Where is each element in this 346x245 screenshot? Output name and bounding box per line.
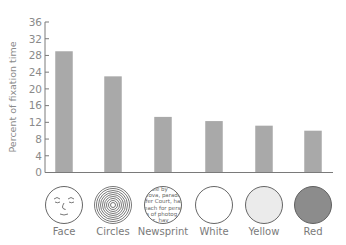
- y-axis-label: Percent of fixation time: [7, 41, 18, 152]
- concentric-circles-icon: [95, 187, 132, 224]
- bar-yellow: [255, 126, 273, 173]
- stimulus-white: [196, 187, 233, 224]
- stimulus-circles: [95, 187, 132, 224]
- y-tick-label: 36: [29, 16, 43, 28]
- category-label: Red: [304, 226, 323, 237]
- stimulus-face: [46, 187, 83, 224]
- svg-text:mer, hav: mer, hav: [144, 217, 169, 223]
- stimulus-yellow: [246, 187, 283, 224]
- stimuli-row: FaceCirclesuable byslova, paradeifer Cou…: [46, 186, 332, 237]
- bar-face: [55, 51, 73, 172]
- disc-icon-white: [196, 187, 233, 224]
- disc-icon-yellow: [246, 187, 283, 224]
- svg-text:ifer Court, has: ifer Court, has: [144, 198, 183, 204]
- y-axis: 04812162024283236: [29, 16, 49, 179]
- bar-red: [304, 131, 322, 173]
- category-label: Newsprint: [138, 226, 189, 237]
- y-tick-label: 0: [35, 166, 42, 178]
- stimulus-red: [295, 187, 332, 224]
- y-tick-label: 28: [29, 49, 42, 61]
- face-icon: [46, 187, 83, 224]
- disc-icon-red: [295, 187, 332, 224]
- y-tick-label: 20: [29, 83, 42, 95]
- y-tick-label: 8: [35, 133, 42, 145]
- y-tick-label: 12: [29, 116, 42, 128]
- y-tick-label: 32: [29, 33, 42, 45]
- y-tick-label: 4: [35, 150, 42, 162]
- fixation-bar-chart: 04812162024283236 Percent of fixation ti…: [0, 0, 346, 245]
- category-label: White: [199, 226, 228, 237]
- y-tick-label: 24: [29, 66, 43, 78]
- category-label: Circles: [96, 226, 129, 237]
- bar-circles: [104, 76, 122, 172]
- stimulus-newsprint: uable byslova, paradeifer Court, haseach…: [144, 186, 184, 224]
- bar-white: [205, 121, 223, 172]
- y-tick-label: 16: [29, 99, 43, 111]
- category-label: Face: [53, 226, 76, 237]
- bars: [55, 51, 322, 172]
- bar-newsprint: [154, 117, 172, 173]
- category-label: Yellow: [248, 226, 280, 237]
